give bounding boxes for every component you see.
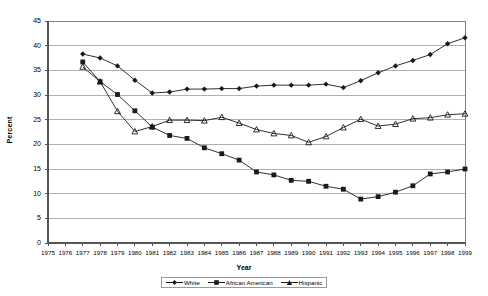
chart-legend: White African American Hispanic xyxy=(161,277,327,288)
legend-marker-triangle-icon xyxy=(281,279,298,286)
y-axis-tick-label: 30 xyxy=(19,91,41,99)
y-axis-tick-label: 45 xyxy=(19,17,41,25)
legend-label-white: White xyxy=(184,279,200,287)
y-axis-tick-label: 25 xyxy=(19,116,41,124)
legend-label-african-american: African American xyxy=(226,279,273,287)
y-axis-tick-label: 40 xyxy=(19,42,41,50)
y-axis-tick-label: 0 xyxy=(19,239,41,247)
legend-marker-diamond-icon xyxy=(166,279,183,286)
legend-item-african-american: African American xyxy=(208,279,273,287)
legend-marker-square-icon xyxy=(208,279,225,286)
legend-item-hispanic: Hispanic xyxy=(281,279,323,287)
y-axis-tick-label: 35 xyxy=(19,66,41,74)
y-axis-tick-label: 20 xyxy=(19,140,41,148)
legend-item-white: White xyxy=(166,279,200,287)
series-hispanic xyxy=(80,64,468,145)
y-axis-tick-label: 10 xyxy=(19,190,41,198)
legend-label-hispanic: Hispanic xyxy=(299,279,323,287)
y-axis-tick-label: 5 xyxy=(19,214,41,222)
x-axis-title: Year xyxy=(0,264,488,271)
series-white xyxy=(80,35,468,96)
x-axis-tick-label: 1999 xyxy=(454,249,476,257)
chart-container: Percent Year White African American Hisp… xyxy=(0,0,488,296)
y-axis-tick-label: 15 xyxy=(19,165,41,173)
